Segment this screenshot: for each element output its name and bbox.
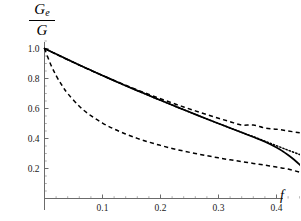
plot-area: 0.10.20.30.4 0.20.40.60.81.0 <box>0 0 300 221</box>
y-tick-label-1.0: 1.0 <box>28 44 40 54</box>
x-axis-major-ticks <box>103 195 277 199</box>
x-tick-label-0.1: 0.1 <box>97 203 109 213</box>
chart-figure: 0.10.20.30.4 0.20.40.60.81.0 Ge G f <box>0 0 300 221</box>
x-axis-tick-labels: 0.10.20.30.4 <box>97 203 283 213</box>
y-axis-major-ticks <box>45 49 49 169</box>
y-tick-label-0.2: 0.2 <box>28 164 40 174</box>
solid-curve <box>45 49 301 171</box>
x-tick-label-0.2: 0.2 <box>155 203 167 213</box>
x-tick-label-0.4: 0.4 <box>271 203 283 213</box>
data-series-group <box>45 49 301 175</box>
upper-dashed-curve <box>45 49 301 134</box>
y-tick-label-0.6: 0.6 <box>28 104 40 114</box>
y-axis-tick-labels: 0.20.40.60.81.0 <box>28 44 40 174</box>
y-tick-label-0.8: 0.8 <box>28 74 40 84</box>
y-tick-label-0.4: 0.4 <box>28 134 40 144</box>
x-tick-label-0.3: 0.3 <box>213 203 225 213</box>
